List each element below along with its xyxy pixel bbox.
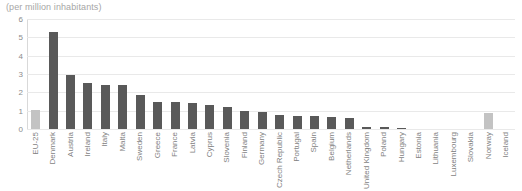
x-axis-label: EU-25	[32, 132, 40, 155]
x-axis-label: Portugal	[293, 132, 301, 162]
bar	[380, 127, 389, 129]
x-axis-label: Norway	[485, 132, 493, 159]
x-axis-label: France	[171, 132, 179, 157]
bar-slot	[62, 19, 79, 129]
bar-slot	[306, 19, 323, 129]
x-axis-label: Slovenia	[223, 132, 231, 163]
bar	[136, 95, 145, 129]
bar	[153, 102, 162, 130]
bar	[171, 102, 180, 129]
bar-slot	[149, 19, 166, 129]
bar-slot	[445, 19, 462, 129]
x-axis-label-slot: Portugal	[288, 131, 305, 189]
bar	[188, 103, 197, 129]
bar	[258, 112, 267, 129]
x-axis-label-slot: Austria	[62, 131, 79, 189]
bar-slot	[375, 19, 392, 129]
bar	[31, 110, 40, 129]
bar-slot	[341, 19, 358, 129]
x-axis-label-slot: Iceland	[497, 131, 514, 189]
x-axis-label-slot: Cyprus	[201, 131, 218, 189]
bar-slot	[463, 19, 480, 129]
bar-slot	[97, 19, 114, 129]
bar	[205, 105, 214, 129]
x-axis-label: Slovakia	[467, 132, 475, 162]
bar	[327, 117, 336, 129]
x-axis-label-slot: Czech Republic	[271, 131, 288, 189]
x-axis-label-slot: Finland	[236, 131, 253, 189]
bar	[345, 118, 354, 129]
bar-slot	[236, 19, 253, 129]
bar-slot	[132, 19, 149, 129]
bar-slot	[219, 19, 236, 129]
bar	[49, 32, 58, 129]
x-axis-label-slot: Netherlands	[341, 131, 358, 189]
y-axis-tick-label: 3	[19, 70, 23, 79]
bar	[66, 75, 75, 129]
x-axis-label: Italy	[101, 132, 109, 147]
y-axis-tick-label: 0	[19, 125, 23, 134]
x-axis-label: Sweden	[136, 132, 144, 161]
x-axis-label: Estonia	[415, 132, 423, 159]
x-axis-label-slot: Sweden	[132, 131, 149, 189]
y-axis-tick-label: 6	[19, 15, 23, 24]
gridline	[27, 129, 515, 130]
x-axis-label-slot: Malta	[114, 131, 131, 189]
x-axis-label-slot: Hungary	[393, 131, 410, 189]
bar-slot	[166, 19, 183, 129]
x-axis-label: Latvia	[189, 132, 197, 153]
x-axis-label: Austria	[67, 132, 75, 157]
bar	[310, 116, 319, 129]
x-axis-label-slot: Slovakia	[463, 131, 480, 189]
x-axis-label: Belgium	[328, 132, 336, 161]
x-axis-label-slot: Slovenia	[219, 131, 236, 189]
x-axis-label: Ireland	[84, 132, 92, 156]
x-axis-label: Hungary	[398, 132, 406, 162]
bar	[101, 85, 110, 129]
x-axis-label-slot: Denmark	[44, 131, 61, 189]
bar-slot	[323, 19, 340, 129]
y-axis-tick-label: 1	[19, 106, 23, 115]
x-axis-label-slot: Luxembourg	[445, 131, 462, 189]
bar	[275, 115, 284, 129]
y-axis-tick-label: 4	[19, 51, 23, 60]
bar-slot	[480, 19, 497, 129]
x-axis-label: Malta	[119, 132, 127, 152]
x-axis-label-slot: France	[166, 131, 183, 189]
x-axis-label: Greece	[154, 132, 162, 158]
bar-slot	[27, 19, 44, 129]
bar-slot	[114, 19, 131, 129]
bar-slot	[79, 19, 96, 129]
x-axis-label: Poland	[380, 132, 388, 157]
x-axis-label-slot: Poland	[375, 131, 392, 189]
x-axis-label-slot: Norway	[480, 131, 497, 189]
x-axis-label-slot: Belgium	[323, 131, 340, 189]
x-axis-label-slot: Spain	[306, 131, 323, 189]
x-axis-label: Iceland	[502, 132, 510, 158]
bar-slot	[271, 19, 288, 129]
x-axis-label-slot: Germany	[253, 131, 270, 189]
bar	[293, 116, 302, 129]
bar-slot	[288, 19, 305, 129]
chart-title: (per million inhabitants)	[6, 2, 102, 12]
x-axis-label: Denmark	[49, 132, 57, 164]
bar	[397, 128, 406, 129]
x-axis-label-slot: United Kingdom	[358, 131, 375, 189]
x-axis-label-slot: Ireland	[79, 131, 96, 189]
bar-slot	[428, 19, 445, 129]
x-axis-label: Spain	[310, 132, 318, 152]
bar-slot	[393, 19, 410, 129]
x-axis-label: Netherlands	[345, 132, 353, 175]
bar-slot	[497, 19, 514, 129]
bar-slot	[184, 19, 201, 129]
bar	[240, 111, 249, 129]
x-axis-label-slot: Italy	[97, 131, 114, 189]
bar	[83, 83, 92, 129]
x-axis-label: Cyprus	[206, 132, 214, 157]
x-axis-label: Germany	[258, 132, 266, 165]
bar	[118, 85, 127, 129]
x-axis-label: Luxembourg	[450, 132, 458, 176]
x-axis-label-slot: Latvia	[184, 131, 201, 189]
x-axis-label-slot: Lithuania	[428, 131, 445, 189]
plot-area: 0123456	[27, 19, 515, 129]
